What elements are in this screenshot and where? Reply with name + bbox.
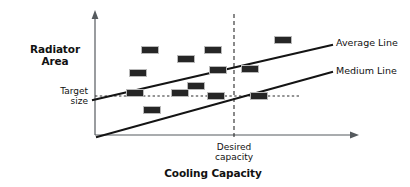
desired-capacity-label: Desired capacity — [194, 142, 274, 162]
data-marker — [172, 90, 189, 97]
x-axis — [95, 132, 359, 139]
data-marker — [188, 83, 205, 90]
data-marker — [127, 90, 144, 97]
legend-label-medium-line: Medium Line — [336, 66, 397, 77]
data-marker — [251, 93, 268, 100]
target-size-label: Target size — [40, 86, 88, 106]
medium-trend-line — [97, 72, 332, 137]
data-marker — [208, 93, 225, 100]
data-marker — [142, 47, 159, 54]
y-axis-title: Radiator Area — [18, 44, 92, 68]
radiator-sizing-scatter-figure: Radiator Area Cooling Capacity Target si… — [0, 0, 410, 187]
data-marker — [178, 56, 195, 63]
data-marker — [275, 37, 292, 44]
legend-label-average-line: Average Line — [336, 38, 398, 49]
x-axis-title: Cooling Capacity — [148, 168, 278, 180]
data-marker — [242, 66, 259, 73]
data-marker — [210, 67, 227, 74]
y-axis — [92, 10, 99, 135]
data-markers — [127, 37, 292, 114]
data-marker — [205, 47, 222, 54]
data-marker — [130, 70, 147, 77]
data-marker — [144, 107, 161, 114]
